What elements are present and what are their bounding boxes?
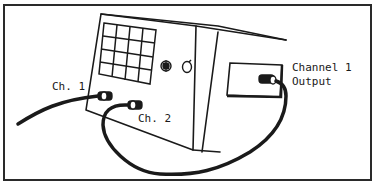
screen-grid-icon <box>99 23 156 84</box>
label-ch1: Ch. 1 <box>52 80 85 93</box>
knob-icon-2 <box>183 60 192 73</box>
side-bottom-edge <box>193 150 220 152</box>
bnc-connector-ch2 <box>128 101 142 109</box>
bnc-connector-output <box>259 75 276 84</box>
bnc-connector-ch1 <box>98 92 112 100</box>
knob-icon <box>161 60 171 72</box>
label-ch2: Ch. 2 <box>138 112 171 125</box>
label-channel-1: Channel 1 <box>292 61 352 74</box>
side-vertical-edge <box>202 32 218 152</box>
top-edge-inner <box>196 26 286 40</box>
oscilloscope-diagram <box>0 0 378 186</box>
label-output: Output <box>292 75 332 88</box>
